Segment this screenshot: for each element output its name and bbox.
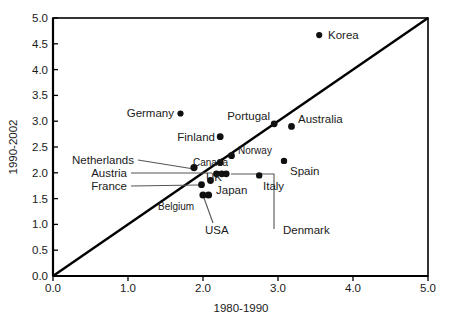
point-denmark[interactable] [223,170,230,177]
label-portugal: Portugal [227,110,270,122]
point-spain[interactable] [281,158,287,164]
label-norway: Norway [238,145,272,156]
label-canada: Canada [193,157,228,168]
y-tick-1.0: 1.0 [32,218,48,230]
point-labels: Korea Germany Portugal Australia Finland… [72,29,359,236]
label-usa: USA [205,224,229,236]
y-tick-3.5: 3.5 [32,89,48,101]
point-usa[interactable] [205,191,212,198]
x-axis-title: 1980-1990 [214,302,269,314]
leader-usa [204,198,213,223]
y-tick-4.5: 4.5 [32,38,48,50]
label-uk: UK [206,171,222,183]
y-tick-0.5: 0.5 [32,244,48,256]
x-axis-tick-labels: 0.0 1.0 2.0 3.0 4.0 5.0 [45,282,436,294]
point-australia[interactable] [288,123,295,130]
label-netherlands: Netherlands [72,154,134,166]
label-belgium: Belgium [158,201,194,212]
y-axis-tick-labels: 5.0 4.5 4.0 3.5 3.0 2.5 2.0 1.5 1.0 0.5 … [32,12,48,282]
chart-canvas: 5.0 4.5 4.0 3.5 3.0 2.5 2.0 1.5 1.0 0.5 … [0,0,454,326]
y-tick-1.5: 1.5 [32,193,48,205]
label-korea: Korea [328,29,359,41]
x-tick-5.0: 5.0 [420,282,436,294]
label-australia: Australia [298,113,343,125]
x-tick-4.0: 4.0 [345,282,361,294]
label-japan: Japan [216,184,247,196]
x-tick-2.0: 2.0 [195,282,211,294]
leader-netherlands [138,160,194,169]
label-germany: Germany [127,107,175,119]
point-portugal[interactable] [271,120,278,127]
y-axis-title: 1990-2002 [7,120,19,175]
x-tick-3.0: 3.0 [270,282,286,294]
point-norway[interactable] [228,152,235,159]
label-france: France [91,180,127,192]
point-finland[interactable] [217,133,224,140]
scatter-chart: 5.0 4.5 4.0 3.5 3.0 2.5 2.0 1.5 1.0 0.5 … [0,0,454,326]
y-tick-2.0: 2.0 [32,167,48,179]
x-tick-0.0: 0.0 [45,282,61,294]
y-tick-4.0: 4.0 [32,64,48,76]
label-spain: Spain [290,165,319,177]
x-tick-1.0: 1.0 [120,282,136,294]
y-tick-5.0: 5.0 [32,12,48,24]
label-denmark: Denmark [283,224,330,236]
y-tick-3.0: 3.0 [32,115,48,127]
label-austria: Austria [91,167,127,179]
point-france[interactable] [198,181,205,188]
point-germany[interactable] [177,110,183,116]
y-tick-2.5: 2.5 [32,141,48,153]
point-italy[interactable] [256,172,262,178]
leader-france [131,185,199,186]
label-italy: Italy [263,180,284,192]
label-finland: Finland [177,131,215,143]
y-tick-0.0: 0.0 [32,270,48,282]
point-korea[interactable] [316,32,322,38]
